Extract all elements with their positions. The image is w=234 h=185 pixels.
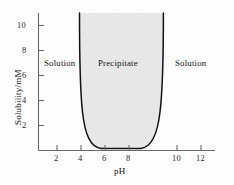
region-label-precipitate: Precipitate	[98, 58, 138, 68]
x-tick-label-4: 4	[78, 153, 82, 163]
y-axis-title: Solubility/mM	[13, 69, 23, 125]
precipitate-shaded-region	[80, 13, 164, 148]
x-tick-label-6: 6	[102, 153, 106, 163]
region-label-right-solution: Solution	[175, 58, 206, 68]
y-axis-ticks	[39, 26, 45, 126]
x-axis-ticks	[57, 145, 201, 151]
x-tick-label-10: 10	[172, 153, 181, 163]
y-tick-label-10: 10	[17, 20, 26, 30]
x-tick-label-8: 8	[126, 153, 130, 163]
x-tick-label-12: 12	[196, 153, 205, 163]
region-label-left-solution: Solution	[44, 58, 75, 68]
y-tick-label-8: 8	[22, 45, 26, 55]
x-tick-label-2: 2	[54, 153, 58, 163]
solubility-ph-figure: 2 4 6 8 10 2 4 6 8 10 12 pH Solubility/m…	[0, 0, 234, 185]
x-axis-title: pH	[114, 166, 125, 176]
